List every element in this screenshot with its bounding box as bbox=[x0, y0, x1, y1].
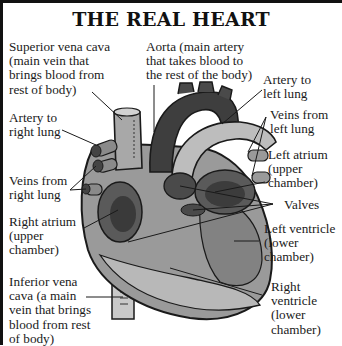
label-right-ventricle: Right ventricle (lower chamber) bbox=[271, 280, 321, 337]
label-aorta: Aorta (main artery that takes blood to t… bbox=[146, 40, 252, 83]
leader-artery-right-lung bbox=[62, 130, 96, 145]
label-veins-left-lung: Veins from left lung bbox=[270, 108, 328, 136]
label-right-atrium: Right atrium (upper chamber) bbox=[9, 215, 76, 258]
label-valves: Valves bbox=[284, 198, 319, 212]
label-left-atrium: Left atrium (upper chamber) bbox=[268, 148, 328, 191]
label-artery-right-lung: Artery to right lung bbox=[9, 111, 61, 139]
label-superior-vena-cava: Superior vena cava (main vein that bring… bbox=[9, 40, 110, 97]
label-veins-right-lung: Veins from right lung bbox=[9, 174, 67, 202]
superior-vena-cava-shape bbox=[114, 108, 142, 170]
label-artery-left-lung: Artery to left lung bbox=[263, 73, 311, 101]
label-left-ventricle: Left ventricle (lower chamber) bbox=[264, 222, 335, 265]
label-inferior-vena-cava: Inferior vena cava (a main vein that bri… bbox=[9, 275, 91, 346]
